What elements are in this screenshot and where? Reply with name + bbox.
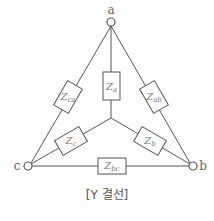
node-b-label: b: [199, 159, 207, 173]
node-c-label: c: [14, 159, 21, 173]
node-b: [189, 162, 197, 170]
impedance-zc: Zc: [55, 127, 88, 156]
impedance-zb: Zb: [133, 127, 166, 157]
diagram-caption: [Y 결선]: [0, 185, 214, 202]
impedance-zab: Zab: [137, 80, 169, 115]
impedance-zbc: Zbc: [98, 158, 126, 174]
node-c: [24, 162, 32, 170]
impedance-zca: Zca: [52, 80, 84, 114]
node-a: [107, 18, 115, 26]
node-a-label: a: [107, 3, 114, 17]
impedance-za: Za: [103, 72, 120, 100]
